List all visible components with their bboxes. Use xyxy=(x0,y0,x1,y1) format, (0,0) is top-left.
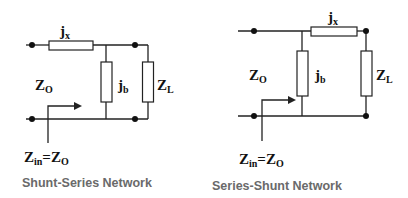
node-bottom-right xyxy=(363,113,369,119)
label-jx: jx xyxy=(327,9,338,27)
label-zo: ZO xyxy=(35,77,53,95)
load-element-zl xyxy=(143,62,154,102)
series-element-jx xyxy=(311,27,357,36)
shunt-series-network: jx jb ZL ZO Zin=ZO Shunt-Series Network xyxy=(22,23,174,190)
node-top-right xyxy=(132,42,138,48)
caption-shunt-series: Shunt-Series Network xyxy=(22,176,152,190)
series-element-jx xyxy=(49,41,93,50)
label-zin-equals-zo: Zin=ZO xyxy=(24,149,69,167)
node-top-right xyxy=(363,28,369,34)
label-zl: ZL xyxy=(376,67,393,85)
caption-series-shunt: Series-Shunt Network xyxy=(212,179,342,193)
load-element-zl xyxy=(361,51,372,96)
label-jb: jb xyxy=(314,67,326,85)
input-arrow-line xyxy=(262,100,290,141)
input-terminal-bottom xyxy=(251,113,257,119)
arrow-head-icon xyxy=(288,96,296,104)
input-terminal-bottom xyxy=(29,116,35,122)
label-zo: ZO xyxy=(249,67,267,85)
label-zl: ZL xyxy=(157,77,174,95)
shunt-element-jb xyxy=(101,62,112,102)
arrow-head-icon xyxy=(74,102,82,110)
input-terminal-top xyxy=(251,28,257,34)
input-arrow-line xyxy=(48,106,76,143)
node-bottom-right xyxy=(132,116,138,122)
series-shunt-network: jx jb ZL ZO Zin=ZO Series-Shunt Network xyxy=(212,9,393,193)
label-jx: jx xyxy=(59,23,70,41)
diagram-canvas: jx jb ZL ZO Zin=ZO Shunt-Series Network … xyxy=(0,0,408,198)
label-jb: jb xyxy=(117,77,129,95)
label-zin-equals-zo: Zin=ZO xyxy=(239,151,284,169)
input-terminal-top xyxy=(29,42,35,48)
shunt-element-jb xyxy=(297,51,308,96)
